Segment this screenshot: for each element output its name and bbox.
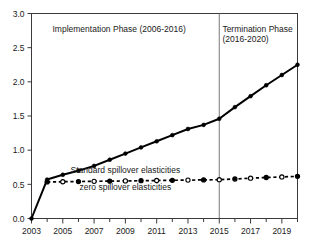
data-point-marker-open xyxy=(61,180,65,184)
data-point-marker xyxy=(155,139,159,143)
zero-spillover-series-label: zero spillover elasticities xyxy=(80,182,172,192)
data-point-marker xyxy=(202,123,206,127)
annotation-line: Standard spillover elasticities xyxy=(71,165,181,175)
line-chart: 0.00.51.01.52.02.53.0 200320052007200920… xyxy=(0,0,313,245)
annotation-line: zero spillover elasticities xyxy=(80,182,172,192)
annotation-line: (2016-2020) xyxy=(222,34,268,44)
x-tick-label: 2015 xyxy=(210,226,229,236)
y-tick-label: 0.0 xyxy=(13,214,25,224)
data-point-marker-open xyxy=(217,178,221,182)
data-point-marker xyxy=(264,83,268,87)
y-tick-label: 2.0 xyxy=(13,77,25,87)
data-point-marker xyxy=(123,152,127,156)
data-point-marker-filled xyxy=(45,180,49,184)
y-tick-label: 1.0 xyxy=(13,145,25,155)
data-point-marker-filled xyxy=(264,175,268,179)
data-point-marker xyxy=(296,63,300,67)
x-tick-label: 2003 xyxy=(22,226,41,236)
y-tick-label: 1.5 xyxy=(13,111,25,121)
data-point-marker-open xyxy=(280,175,284,179)
x-tick-label: 2009 xyxy=(116,226,135,236)
implementation-phase-label: Implementation Phase (2006-2016) xyxy=(52,24,185,34)
data-point-marker xyxy=(170,133,174,137)
x-tick-label: 2007 xyxy=(85,226,104,236)
annotation-line: Implementation Phase (2006-2016) xyxy=(52,24,185,34)
x-tick-label: 2005 xyxy=(53,226,72,236)
y-tick-label: 2.5 xyxy=(13,43,25,53)
data-point-marker-open xyxy=(248,176,252,180)
annotation-line: Termination Phase xyxy=(222,24,293,34)
data-point-marker-filled xyxy=(202,178,206,182)
data-point-marker xyxy=(280,73,284,77)
chart-figure: 0.00.51.01.52.02.53.0 200320052007200920… xyxy=(0,0,313,245)
data-point-marker-filled xyxy=(295,174,299,178)
data-point-marker xyxy=(186,127,190,131)
data-point-marker-open xyxy=(186,178,190,182)
x-tick-label: 2013 xyxy=(179,226,198,236)
data-point-marker xyxy=(233,105,237,109)
y-tick-label: 3.0 xyxy=(13,9,25,19)
x-tick-label: 2019 xyxy=(272,226,291,236)
data-point-marker xyxy=(61,173,65,177)
data-point-marker-filled xyxy=(233,177,237,181)
x-tick-label: 2011 xyxy=(148,226,167,236)
data-point-marker xyxy=(108,158,112,162)
standard-spillover-series-label: Standard spillover elasticities xyxy=(71,165,181,175)
data-point-marker xyxy=(249,94,253,98)
data-point-marker xyxy=(217,117,221,121)
x-tick-label: 2017 xyxy=(241,226,260,236)
y-tick-label: 0.5 xyxy=(13,180,25,190)
data-point-marker xyxy=(30,217,34,221)
data-point-marker xyxy=(139,146,143,150)
